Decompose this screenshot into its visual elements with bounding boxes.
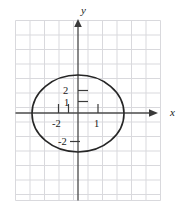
coordinate-plane-figure — [0, 0, 183, 215]
y-tick-label-2: 2 — [63, 86, 68, 97]
y-tick-label-minus-2: -2 — [58, 137, 67, 148]
y-tick-label-1: 1 — [64, 98, 69, 109]
x-axis-label: x — [170, 107, 175, 118]
y-axis-label: y — [81, 5, 86, 16]
x-tick-label-minus-2: -2 — [52, 119, 61, 130]
x-tick-label-1: 1 — [94, 119, 99, 130]
